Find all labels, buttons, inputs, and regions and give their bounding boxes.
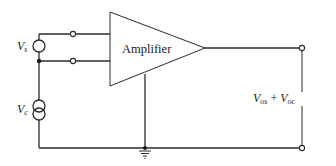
input-terminal-lower [70, 58, 75, 63]
vc-source-icon-lower [33, 108, 45, 120]
circuit-diagram: Amplifier Vs Vc Vos+Voc [0, 0, 336, 166]
vs-label: Vs [17, 39, 27, 54]
output-terminal-lower [299, 145, 304, 150]
ground-node [143, 146, 147, 150]
amplifier-label: Amplifier [122, 42, 172, 56]
vs-source-icon [33, 40, 45, 52]
output-voltage-label: Vos+Voc [253, 91, 296, 106]
vc-label: Vc [17, 102, 28, 117]
output-terminal-upper [299, 45, 304, 50]
ground-icon [139, 151, 151, 158]
junction-node [37, 59, 41, 63]
input-terminal-upper [70, 31, 75, 36]
